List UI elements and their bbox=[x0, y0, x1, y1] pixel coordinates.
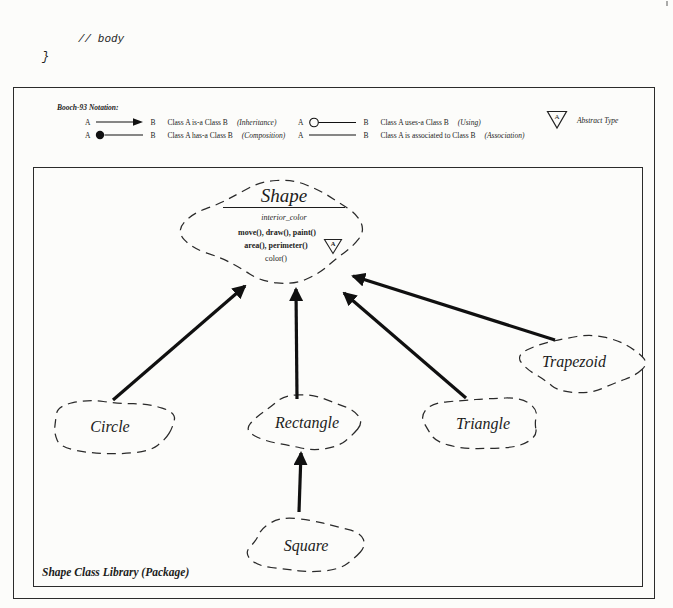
square-class-name: Square bbox=[284, 537, 329, 555]
trapezoid-class-name: Trapezoid bbox=[542, 353, 606, 371]
rectangle-class-name: Rectangle bbox=[275, 414, 339, 432]
inheritance-arrow-trapezoid-to-shape bbox=[353, 276, 555, 340]
inheritance-arrow-square-to-rectangle bbox=[299, 453, 301, 512]
shape-abstract-marker-icon: A bbox=[323, 238, 343, 255]
shape-methods-line: color() bbox=[206, 254, 346, 263]
shape-abstract-letter: A bbox=[331, 240, 336, 247]
triangle-class-name: Triangle bbox=[456, 415, 510, 433]
inheritance-arrow-rectangle-to-shape bbox=[296, 289, 297, 399]
diagram-canvas bbox=[0, 0, 673, 608]
package-caption: Shape Class Library (Package) bbox=[42, 566, 189, 578]
shape-methods-line: move(), draw(), paint() bbox=[207, 228, 347, 237]
inheritance-arrow-triangle-to-shape bbox=[344, 293, 466, 398]
shape-attribute: interior_color bbox=[223, 213, 345, 222]
inheritance-arrow-circle-to-shape bbox=[113, 286, 245, 400]
scanned-page: // body } Booch-93 Notation: A B Class A… bbox=[0, 0, 673, 608]
shape-class-name: Shape bbox=[223, 186, 345, 208]
circle-class-name: Circle bbox=[90, 418, 129, 436]
